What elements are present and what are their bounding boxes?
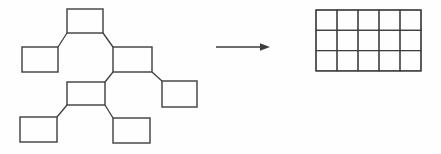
- right-arrow-head-icon: [260, 43, 270, 51]
- node-right-child: [113, 47, 152, 72]
- node-right-grandchild: [162, 81, 197, 107]
- tree-edge: [152, 72, 162, 81]
- grid-cell: [379, 10, 400, 30]
- grid-cell: [316, 51, 337, 71]
- node-left-child: [22, 47, 58, 72]
- tree-edge: [105, 105, 113, 118]
- tree-to-grid-figure: [0, 0, 441, 154]
- node-bottom-middle-leaf: [113, 118, 150, 143]
- grid-cell: [337, 51, 358, 71]
- grid-cell: [316, 10, 337, 30]
- tree-edge: [57, 105, 67, 117]
- tree-edge: [103, 33, 113, 47]
- grid-cell: [337, 30, 358, 50]
- grid-cell: [358, 30, 379, 50]
- grid-cell: [358, 10, 379, 30]
- grid-cell: [379, 30, 400, 50]
- grid-cell: [337, 10, 358, 30]
- grid-outline: [316, 10, 421, 71]
- grid-cell: [400, 51, 421, 71]
- node-middle-grandchild: [67, 82, 105, 105]
- tree-edge: [105, 72, 113, 82]
- diagram-canvas: [0, 0, 441, 154]
- grid-cell: [400, 30, 421, 50]
- grid-cell: [379, 51, 400, 71]
- tree-edge: [58, 33, 67, 47]
- grid-cell: [358, 51, 379, 71]
- grid-cell: [400, 10, 421, 30]
- grid-cell: [316, 30, 337, 50]
- node-bottom-left-leaf: [20, 117, 57, 142]
- node-root: [67, 9, 103, 33]
